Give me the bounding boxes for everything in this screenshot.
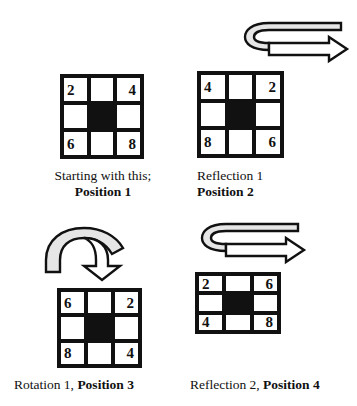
caption-position-3: Rotation 1, Position 3 <box>14 377 194 393</box>
grid-cell-r1c2 <box>229 75 253 99</box>
cell-value: 4 <box>127 346 135 361</box>
cell-value: 8 <box>266 315 274 330</box>
grid-cell-r2c3 <box>254 295 277 310</box>
grid-cell-r3c2 <box>88 343 111 364</box>
grid-position-1: 2 4 6 8 <box>60 74 144 159</box>
grid-cell-r1c1: 2 <box>199 276 222 291</box>
cell-value: 2 <box>268 79 276 94</box>
grid-position-4: 2 6 4 8 <box>195 272 281 334</box>
grid-cell-r1c2 <box>88 292 111 313</box>
grid-position-3: 6 2 8 4 <box>57 288 142 368</box>
cell-value: 2 <box>127 295 135 310</box>
grid-cell-r2c3 <box>117 105 140 128</box>
caption-line-1: Starting with this; <box>38 168 168 184</box>
grid-cell-r1c2 <box>226 276 249 291</box>
grid-cell-r2c2-filled <box>91 105 114 128</box>
grid-cell-r3c1: 8 <box>201 130 225 154</box>
grid-cell-r1c1: 2 <box>64 78 87 101</box>
cell-value: 6 <box>67 136 75 151</box>
cell-value: 2 <box>67 82 75 97</box>
grid-cell-r2c1 <box>199 295 222 310</box>
rotation-arrow-position-3 <box>44 226 174 282</box>
grid-cell-r3c3: 8 <box>117 132 140 155</box>
grid-position-2: 4 2 8 6 <box>197 71 284 158</box>
grid-cell-r1c3: 2 <box>115 292 138 313</box>
caption-line-2: Position 4 <box>263 377 320 392</box>
grid-cell-r2c1 <box>61 317 84 338</box>
grid-cell-r2c2-filled <box>88 317 111 338</box>
grid-cell-r3c2 <box>226 315 249 330</box>
grid-cell-r3c3: 8 <box>254 315 277 330</box>
puzzle-transformation-diagram: 2 4 6 8 Starting with this; Position 1 4 <box>0 0 357 406</box>
flip-arrow-position-4 <box>200 218 312 270</box>
cell-value: 6 <box>64 295 72 310</box>
caption-position-2: Reflection 1 Position 2 <box>197 168 337 200</box>
caption-line-1: Reflection 1 <box>197 168 337 184</box>
grid-cell-r3c2 <box>91 132 114 155</box>
caption-position-1: Starting with this; Position 1 <box>38 168 168 200</box>
grid-cell-r3c3: 4 <box>115 343 138 364</box>
cell-value: 6 <box>266 276 274 291</box>
rotation-arrow-icon <box>44 226 174 282</box>
cell-value: 8 <box>204 135 212 150</box>
grid-cell-r2c3 <box>115 317 138 338</box>
grid-cell-r3c2 <box>229 130 253 154</box>
cell-value: 8 <box>64 346 72 361</box>
caption-position-4: Reflection 2, Position 4 <box>190 377 357 393</box>
cell-value: 8 <box>128 136 136 151</box>
grid-cell-r2c3 <box>256 103 280 127</box>
cell-value: 4 <box>128 82 136 97</box>
grid-cell-r1c1: 6 <box>61 292 84 313</box>
grid-cell-r1c3: 4 <box>117 78 140 101</box>
cell-value: 4 <box>204 79 212 94</box>
grid-cell-r1c1: 4 <box>201 75 225 99</box>
grid-cell-r3c3: 6 <box>256 130 280 154</box>
cell-value: 6 <box>268 135 276 150</box>
caption-line-1: Reflection 2, <box>190 377 263 392</box>
grid-cell-r1c2 <box>91 78 114 101</box>
grid-cell-r1c3: 6 <box>254 276 277 291</box>
caption-line-2: Position 1 <box>38 184 168 200</box>
caption-line-2: Position 3 <box>77 377 134 392</box>
grid-cell-r2c1 <box>64 105 87 128</box>
grid-cell-r2c1 <box>201 103 225 127</box>
caption-line-2: Position 2 <box>197 184 337 200</box>
grid-cell-r2c2-filled <box>226 295 249 310</box>
grid-cell-r2c2-filled <box>229 103 253 127</box>
flip-arrow-position-2 <box>243 17 355 69</box>
caption-line-1: Rotation 1, <box>14 377 77 392</box>
flip-arrow-icon <box>243 17 355 69</box>
cell-value: 4 <box>202 315 210 330</box>
grid-cell-r3c1: 8 <box>61 343 84 364</box>
cell-value: 2 <box>202 276 210 291</box>
grid-cell-r3c1: 4 <box>199 315 222 330</box>
grid-cell-r1c3: 2 <box>256 75 280 99</box>
grid-cell-r3c1: 6 <box>64 132 87 155</box>
flip-arrow-icon <box>200 218 312 270</box>
